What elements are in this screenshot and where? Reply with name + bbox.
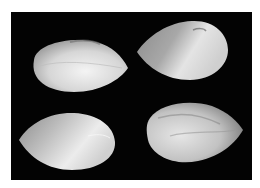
seed-photo: [0, 0, 260, 188]
seed-top-left: [33, 40, 128, 92]
seed-top-right: [137, 21, 228, 80]
seed-bottom-right: [147, 103, 243, 162]
seed-bottom-left: [19, 113, 115, 170]
